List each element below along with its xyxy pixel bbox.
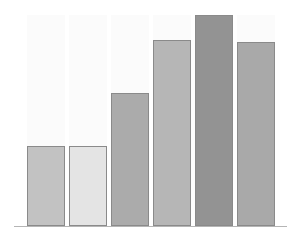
x-axis-baseline — [14, 226, 287, 227]
bar-4 — [153, 40, 191, 226]
bar-6 — [237, 42, 275, 226]
bar-2 — [69, 146, 107, 226]
bar-5 — [195, 15, 233, 226]
bar-3 — [111, 93, 149, 226]
bar-chart — [0, 0, 295, 238]
bar-1 — [27, 146, 65, 226]
